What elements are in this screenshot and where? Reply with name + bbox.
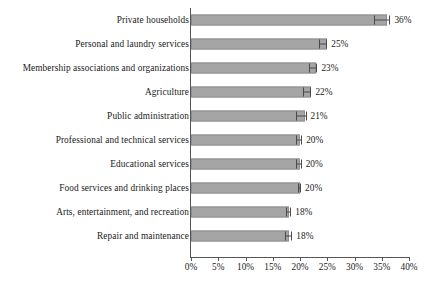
category-label: Arts, entertainment, and recreation — [56, 207, 189, 217]
x-axis-tick-label: 10% — [237, 262, 254, 272]
category-label: Personal and laundry services — [75, 39, 189, 49]
bar-wrapper — [191, 39, 327, 50]
error-bar-cap-right — [389, 16, 390, 25]
bar-row: Private households36% — [0, 8, 426, 32]
x-axis-tick-label: 0% — [185, 262, 197, 272]
category-label: Public administration — [107, 111, 189, 121]
x-axis-tick-mark — [327, 257, 328, 261]
bar-value-label: 21% — [311, 111, 328, 121]
bar-row: Public administration21% — [0, 104, 426, 128]
error-bar — [296, 136, 303, 145]
error-bar-cap-right — [310, 88, 311, 97]
x-axis-ticks: 0%5%10%15%20%25%30%35%40% — [0, 257, 426, 285]
bar-wrapper — [191, 207, 289, 218]
bar — [191, 135, 300, 146]
bar-value-label: 22% — [315, 87, 332, 97]
x-axis-tick-mark — [409, 257, 410, 261]
bar-row: Educational services20% — [0, 152, 426, 176]
bar — [191, 63, 316, 74]
x-axis-tick-mark — [191, 257, 192, 261]
category-label: Membership associations and organization… — [23, 63, 189, 73]
bar-wrapper — [191, 15, 387, 26]
error-bar-cap-left — [319, 40, 320, 49]
bar-row: Repair and maintenance18% — [0, 224, 426, 248]
x-axis-tick-label: 20% — [291, 262, 308, 272]
bar-row: Personal and laundry services25% — [0, 32, 426, 56]
bar-row: Agriculture22% — [0, 80, 426, 104]
error-bar-cap-right — [291, 232, 292, 241]
error-bar — [285, 232, 293, 241]
bar-wrapper — [191, 111, 305, 122]
error-bar — [286, 208, 291, 217]
bar-row: Professional and technical services20% — [0, 128, 426, 152]
bar-value-label: 20% — [306, 159, 323, 169]
x-axis-tick-label: 40% — [400, 262, 417, 272]
error-bar-cap-right — [290, 208, 291, 217]
error-bar-cap-left — [286, 208, 287, 217]
bar-row: Membership associations and organization… — [0, 56, 426, 80]
bar — [191, 87, 311, 98]
error-bar — [298, 184, 301, 193]
bar — [191, 39, 327, 50]
bar — [191, 231, 289, 242]
error-bar-cap-left — [296, 160, 297, 169]
x-axis-tick-label: 5% — [212, 262, 224, 272]
error-bar-cap-left — [296, 136, 297, 145]
error-bar-cap-left — [296, 112, 297, 121]
error-bar-cap-left — [298, 184, 299, 193]
error-bar-cap-right — [301, 160, 302, 169]
error-bar — [309, 64, 318, 73]
x-axis-tick-mark — [300, 257, 301, 261]
bar-value-label: 20% — [305, 183, 322, 193]
bar-wrapper — [191, 135, 300, 146]
error-bar — [296, 160, 301, 169]
error-bar — [303, 88, 311, 97]
x-axis-tick-mark — [246, 257, 247, 261]
bar — [191, 111, 305, 122]
x-axis-tick-mark — [355, 257, 356, 261]
error-bar-line — [374, 20, 390, 21]
bar — [191, 183, 300, 194]
error-bar — [319, 40, 328, 49]
bar-value-label: 25% — [331, 39, 348, 49]
category-label: Repair and maintenance — [97, 231, 189, 241]
category-label: Food services and drinking places — [59, 183, 189, 193]
x-axis-tick-label: 15% — [264, 262, 281, 272]
error-bar-cap-right — [316, 64, 317, 73]
x-axis-tick-mark — [382, 257, 383, 261]
bar-value-label: 23% — [321, 63, 338, 73]
bar-value-label: 18% — [296, 231, 313, 241]
bar — [191, 159, 300, 170]
error-bar-cap-right — [306, 112, 307, 121]
error-bar-cap-left — [285, 232, 286, 241]
category-label: Professional and technical services — [56, 135, 189, 145]
bar-value-label: 18% — [295, 207, 312, 217]
bar-value-label: 20% — [306, 135, 323, 145]
error-bar — [296, 112, 307, 121]
bar-chart: Private households36%Personal and laundr… — [0, 0, 426, 285]
category-label: Agriculture — [145, 87, 189, 97]
x-axis-tick-label: 25% — [319, 262, 336, 272]
x-axis-tick-label: 35% — [373, 262, 390, 272]
error-bar-cap-right — [300, 184, 301, 193]
bar — [191, 15, 387, 26]
bar-row: Arts, entertainment, and recreation18% — [0, 200, 426, 224]
bar-wrapper — [191, 159, 300, 170]
error-bar-cap-right — [326, 40, 327, 49]
bar-wrapper — [191, 87, 311, 98]
bar-row: Food services and drinking places20% — [0, 176, 426, 200]
bar-wrapper — [191, 183, 300, 194]
error-bar-cap-left — [309, 64, 310, 73]
bar-wrapper — [191, 231, 289, 242]
bar-value-label: 36% — [394, 15, 411, 25]
category-label: Educational services — [110, 159, 189, 169]
error-bar-cap-left — [374, 16, 375, 25]
bar-rows-container: Private households36%Personal and laundr… — [0, 0, 426, 257]
error-bar-cap-right — [301, 136, 302, 145]
error-bar-cap-left — [303, 88, 304, 97]
x-axis-tick-mark — [273, 257, 274, 261]
x-axis-tick-label: 30% — [346, 262, 363, 272]
error-bar — [374, 16, 390, 25]
x-axis-tick-mark — [218, 257, 219, 261]
category-label: Private households — [117, 15, 189, 25]
